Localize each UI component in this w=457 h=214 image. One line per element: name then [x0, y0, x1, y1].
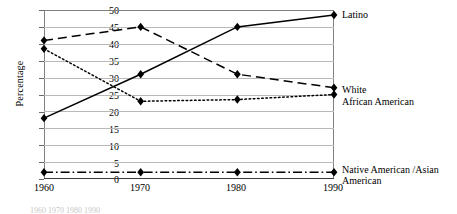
data-point-marker [41, 45, 48, 53]
line-chart: Percentage 50 45 40 35 30 25 20 15 10 5 … [0, 0, 457, 214]
x-tick-label-1980: 1980 [211, 183, 261, 193]
x-tick-label-1970: 1970 [115, 183, 165, 193]
data-point-marker [137, 97, 144, 105]
data-point-marker [137, 70, 144, 78]
data-point-marker [234, 168, 241, 176]
caption-partial: 1960 1970 1980 1990 [30, 207, 100, 214]
y-axis-label: Percentage [14, 44, 25, 124]
data-point-marker [331, 90, 338, 98]
data-point-marker [41, 114, 48, 122]
data-point-marker [234, 23, 241, 31]
plot-area [44, 10, 334, 179]
data-point-marker [331, 168, 338, 176]
legend-label-native-asian-american: Native American /Asian American [342, 164, 439, 186]
series-line-white [44, 27, 334, 88]
caption-strip: 1960 1970 1980 1990 [0, 207, 457, 214]
data-point-marker [137, 23, 144, 31]
data-point-marker [234, 70, 241, 78]
data-point-marker [234, 95, 241, 103]
data-point-marker [331, 11, 338, 19]
legend-label-latino: Latino [342, 9, 368, 20]
legend-label-african-american: African American [342, 96, 414, 107]
data-point-marker [41, 168, 48, 176]
legend-label-white: White [342, 84, 366, 95]
series-lines [44, 10, 334, 179]
series-line-african-american [44, 49, 334, 101]
x-tick-label-1960: 1960 [19, 183, 69, 193]
data-point-marker [137, 168, 144, 176]
series-line-latino [44, 15, 334, 118]
